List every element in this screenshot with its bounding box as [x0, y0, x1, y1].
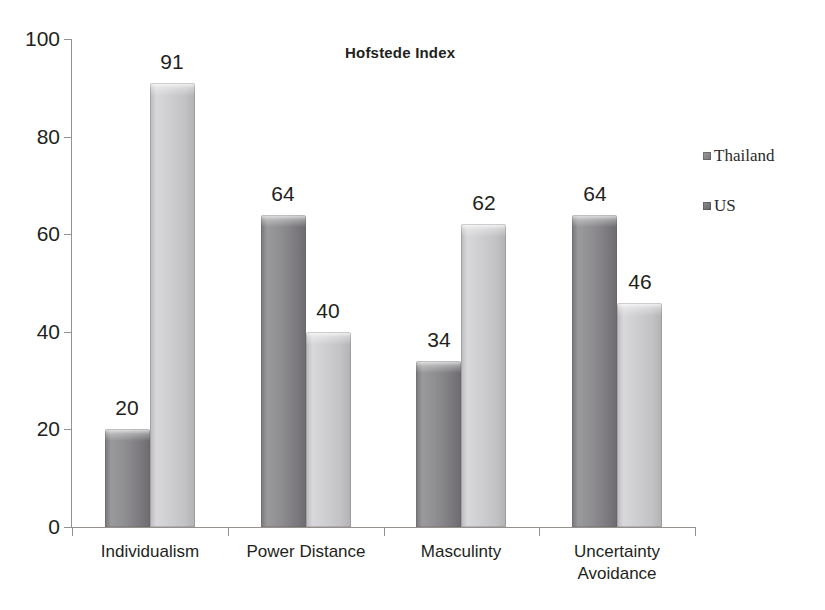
x-axis-category-label: Individualism	[65, 541, 235, 563]
legend-item-label: US	[714, 196, 736, 216]
y-axis-tick	[64, 527, 72, 528]
category-label-line: Individualism	[65, 541, 235, 563]
bar-us-power-distance	[306, 332, 351, 527]
y-axis-label: 80	[0, 126, 60, 147]
x-axis-tick	[695, 527, 696, 536]
bar-value-label: 62	[454, 192, 514, 213]
chart-legend: ThailandUS	[703, 146, 818, 246]
bar-us-uncertainty-avoidance	[617, 303, 662, 527]
bar-us-masculinty	[461, 224, 506, 527]
bar-thailand-uncertainty-avoidance	[572, 215, 617, 527]
bar-value-label: 34	[409, 329, 469, 350]
x-axis-tick	[228, 527, 229, 536]
x-axis-tick	[72, 527, 73, 536]
y-axis-label: 60	[0, 223, 60, 244]
bar-thailand-individualism	[105, 429, 150, 527]
bar-value-label: 64	[253, 183, 313, 204]
category-label-line: Avoidance	[532, 563, 702, 585]
x-axis-category-label: Power Distance	[221, 541, 391, 563]
legend-swatch-us-icon	[703, 202, 711, 210]
bar-value-label: 64	[565, 183, 625, 204]
y-axis-label: 0	[0, 516, 60, 537]
legend-item-thailand[interactable]: Thailand	[703, 146, 818, 166]
bar-value-label: 20	[97, 397, 157, 418]
y-axis-tick	[64, 332, 72, 333]
bar-value-label: 40	[298, 300, 358, 321]
category-label-line: Masculinty	[376, 541, 546, 563]
x-axis-tick	[384, 527, 385, 536]
y-axis-tick	[64, 137, 72, 138]
y-axis-label: 20	[0, 418, 60, 439]
legend-item-label: Thailand	[714, 146, 774, 166]
hofstede-index-chart: Hofstede Index 020406080100 209164403462…	[0, 0, 825, 610]
y-axis-tick	[64, 429, 72, 430]
category-label-line: Uncertainty	[532, 541, 702, 563]
bar-value-label: 91	[142, 51, 202, 72]
y-axis-tick	[64, 39, 72, 40]
category-label-line: Power Distance	[221, 541, 391, 563]
bar-thailand-power-distance	[261, 215, 306, 527]
chart-title: Hofstede Index	[345, 44, 455, 61]
x-axis-category-label: Masculinty	[376, 541, 546, 563]
y-axis-line	[71, 39, 72, 528]
legend-swatch-thailand-icon	[703, 152, 711, 160]
bar-us-individualism	[150, 83, 195, 527]
bar-value-label: 46	[610, 271, 670, 292]
x-axis-tick	[539, 527, 540, 536]
y-axis-tick	[64, 234, 72, 235]
bar-thailand-masculinty	[416, 361, 461, 527]
x-axis-category-label: UncertaintyAvoidance	[532, 541, 702, 585]
y-axis-label: 100	[0, 28, 60, 49]
y-axis-label: 40	[0, 321, 60, 342]
legend-item-us[interactable]: US	[703, 196, 818, 216]
